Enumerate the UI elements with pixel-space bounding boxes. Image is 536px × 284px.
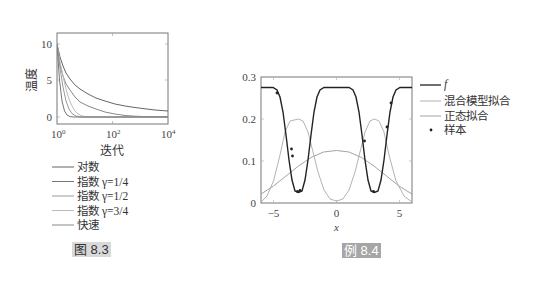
legend-exp-1-4: 指数 γ=1/4 [77, 175, 128, 189]
figure-caption-right: 例 8.4 [342, 243, 381, 258]
left-xtick-0: 100 [51, 128, 66, 140]
right-ytick-0.2: 0.2 [242, 113, 256, 125]
right-xtick-5: 5 [397, 207, 403, 219]
left-ytick-5: 5 [47, 74, 53, 86]
series-exp-3-4 [57, 44, 168, 117]
legend-exp-3-4: 指数 γ=3/4 [77, 204, 128, 218]
right-chart: 0.3 0.2 0.1 0 −5 0 5 x [242, 71, 511, 233]
legend-log: 对数 [77, 160, 100, 173]
series-exp-1-4 [57, 44, 168, 117]
legend-mixture: 混合模型拟合 [444, 94, 511, 107]
right-legend: f 混合模型拟合 正态拟合 样本 [420, 78, 511, 136]
figure-caption-left: 图 8.3 [72, 242, 111, 257]
left-plot-frame [57, 33, 168, 124]
left-xtick-4: 104 [161, 128, 176, 140]
right-ytick-0: 0 [251, 197, 257, 209]
series-fast [57, 44, 168, 117]
right-ytick-0.3: 0.3 [242, 71, 256, 83]
right-xtick-0: 0 [334, 207, 340, 219]
legend-fast: 快速 [77, 219, 100, 231]
series-mixture-fit [261, 119, 412, 202]
left-xlabel: 迭代 [100, 144, 124, 158]
right-ytick-0.1: 0.1 [242, 155, 256, 167]
series-log [57, 44, 168, 111]
legend-normal: 正态拟合 [444, 109, 489, 122]
left-ylabel: 温度 [24, 68, 39, 92]
left-ytick-10: 10 [41, 38, 53, 50]
left-chart: 10 5 0 100 102 104 迭代 温度 对数 指数 γ=1/4 指数 … [24, 33, 176, 231]
left-legend: 对数 指数 γ=1/4 指数 γ=1/2 指数 γ=3/4 快速 [52, 160, 128, 231]
legend-f: f [444, 78, 449, 91]
left-xtick-2: 102 [106, 128, 121, 140]
right-xtick-neg5: −5 [268, 207, 280, 219]
left-ytick-0: 0 [47, 111, 53, 123]
right-xlabel: x [333, 221, 339, 233]
series-exp-1-2 [57, 44, 168, 117]
series-samples [276, 92, 393, 193]
legend-samples: 样本 [444, 123, 467, 136]
legend-exp-1-2: 指数 γ=1/2 [77, 189, 128, 203]
